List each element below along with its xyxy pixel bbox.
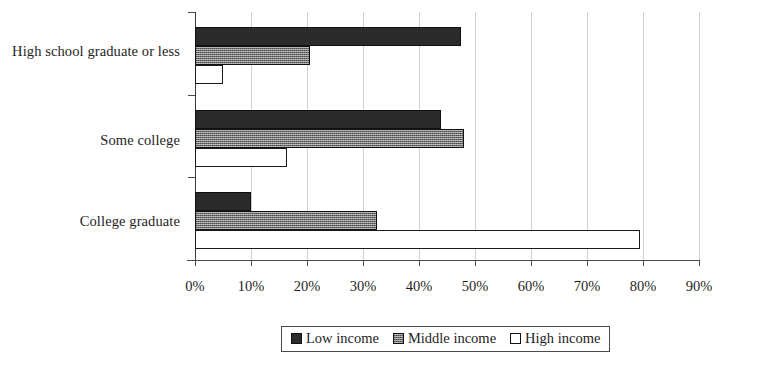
legend-swatch-high-income-icon	[510, 333, 521, 344]
y-axis-tick-3	[188, 177, 195, 178]
bar-low-income-3	[195, 192, 251, 211]
legend-label-low-income: Low income	[306, 330, 379, 347]
x-tick-label-40pct: 40%	[389, 278, 449, 295]
bar-low-income-1	[195, 27, 461, 46]
x-tick-label-10pct: 10%	[221, 278, 281, 295]
bar-chart: High school graduate or less Some colleg…	[0, 0, 758, 378]
legend-item-middle-income[interactable]: Middle income	[393, 330, 496, 347]
legend-label-middle-income: Middle income	[408, 330, 496, 347]
gridline-90	[699, 12, 700, 260]
x-tick-label-70pct: 70%	[557, 278, 617, 295]
legend-swatch-middle-income-icon	[393, 333, 404, 344]
x-tick-label-60pct: 60%	[501, 278, 561, 295]
legend-label-high-income: High income	[525, 330, 600, 347]
x-tick-label-80pct: 80%	[613, 278, 673, 295]
bar-low-income-2	[195, 110, 441, 129]
x-axis-tick-20	[307, 260, 308, 266]
x-axis-tick-80	[643, 260, 644, 266]
x-tick-label-0pct: 0%	[165, 278, 225, 295]
gridline-50	[475, 12, 476, 260]
category-label-high-school: High school graduate or less	[0, 42, 180, 60]
x-axis-tick-0	[195, 260, 196, 266]
bar-high-income-1	[195, 65, 223, 84]
bar-high-income-2	[195, 148, 287, 167]
plot-area	[195, 12, 699, 260]
x-axis-tick-30	[363, 260, 364, 266]
x-tick-label-20pct: 20%	[277, 278, 337, 295]
x-axis-line	[187, 260, 699, 261]
bar-high-income-3	[195, 230, 640, 249]
y-axis-tick-2	[188, 95, 195, 96]
category-label-college-graduate: College graduate	[0, 212, 180, 230]
x-axis-tick-40	[419, 260, 420, 266]
x-tick-label-30pct: 30%	[333, 278, 393, 295]
bar-middle-income-3	[195, 211, 377, 230]
bar-middle-income-1	[195, 46, 310, 65]
x-axis-tick-60	[531, 260, 532, 266]
legend-swatch-low-income-icon	[291, 333, 302, 344]
x-axis-tick-50	[475, 260, 476, 266]
x-tick-label-50pct: 50%	[445, 278, 505, 295]
category-label-some-college: Some college	[0, 131, 180, 149]
x-axis-tick-10	[251, 260, 252, 266]
gridline-60	[531, 12, 532, 260]
legend-item-high-income[interactable]: High income	[510, 330, 600, 347]
chart-legend: Low income Middle income High income	[281, 326, 610, 352]
bar-middle-income-2	[195, 129, 464, 148]
gridline-70	[587, 12, 588, 260]
x-axis-tick-90	[699, 260, 700, 266]
x-axis-tick-labels: 0%10%20%30%40%50%60%70%80%90%	[195, 278, 715, 300]
legend-item-low-income[interactable]: Low income	[291, 330, 379, 347]
gridline-80	[643, 12, 644, 260]
x-axis-tick-70	[587, 260, 588, 266]
x-tick-label-90pct: 90%	[669, 278, 729, 295]
category-axis-labels: High school graduate or less Some colleg…	[0, 0, 188, 258]
y-axis-tick-top	[188, 12, 195, 13]
